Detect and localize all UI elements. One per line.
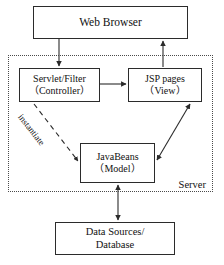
node-servlet-filter-controller: Servlet/Filter （Controller） [19, 68, 100, 102]
node-javabeans-role: （Model） [94, 163, 140, 175]
node-jsp-pages-view: JSP pages （View） [128, 68, 202, 102]
server-region-label: Server [179, 180, 206, 191]
node-data-sources-line1: Data Sources/ [86, 226, 145, 238]
node-data-sources-database: Data Sources/ Database [55, 222, 175, 255]
mvc-architecture-diagram: Server JavaBeans (dashed, "instantia [0, 0, 224, 265]
node-javabeans-model: JavaBeans （Model） [80, 143, 155, 183]
node-data-sources-line2: Database [96, 239, 134, 251]
node-servlet-filter-title: Servlet/Filter [33, 73, 86, 85]
node-jsp-pages-title: JSP pages [145, 73, 185, 85]
node-servlet-filter-role: （Controller） [29, 85, 90, 97]
node-jsp-pages-role: （View） [144, 85, 185, 97]
node-web-browser-label: Web Browser [79, 16, 142, 30]
node-web-browser: Web Browser [33, 6, 188, 39]
node-javabeans-title: JavaBeans [96, 151, 138, 163]
